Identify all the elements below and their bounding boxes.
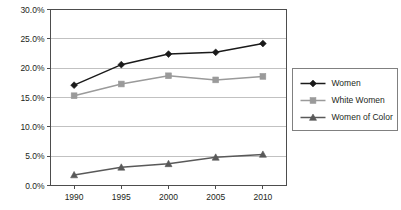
data-point-marker-diamond — [260, 40, 267, 47]
line-chart: 0.0%5.0%10.0%15.0%20.0%25.0%30.0% 199019… — [0, 0, 401, 210]
data-point-marker-diamond — [118, 61, 125, 68]
gridlines — [51, 10, 287, 157]
legend-item-label: Women — [332, 78, 361, 88]
legend-item-label: Women of Color — [332, 112, 393, 122]
y-axis-tick-label: 0.0% — [25, 181, 45, 191]
x-axis-tick-label: 2000 — [159, 192, 178, 202]
series-group — [71, 40, 267, 178]
legend-item-label: White Women — [332, 95, 385, 105]
series-women — [71, 40, 267, 88]
x-axis — [51, 186, 287, 190]
y-axis-tick-label: 30.0% — [20, 5, 45, 15]
series-white-women — [71, 73, 266, 99]
x-axis-tick-label: 2005 — [206, 192, 225, 202]
data-point-marker-square — [260, 73, 266, 79]
y-axis-tick-label: 10.0% — [20, 122, 45, 132]
y-axis — [47, 10, 51, 186]
data-point-marker-diamond — [212, 49, 219, 56]
y-axis-tick-labels: 0.0%5.0%10.0%15.0%20.0%25.0%30.0% — [20, 5, 45, 191]
y-axis-tick-label: 5.0% — [25, 151, 45, 161]
data-point-marker-square — [166, 73, 172, 79]
x-axis-tick-labels: 19901995200020052010 — [65, 192, 273, 202]
data-point-marker-square — [118, 81, 124, 87]
data-point-marker-square — [71, 93, 77, 99]
x-axis-tick-label: 2010 — [253, 192, 272, 202]
data-point-marker-diamond — [71, 82, 78, 89]
y-axis-tick-label: 20.0% — [20, 63, 45, 73]
y-axis-tick-label: 15.0% — [20, 93, 45, 103]
data-point-marker-square — [310, 98, 316, 104]
x-axis-tick-label: 1995 — [112, 192, 131, 202]
x-axis-tick-label: 1990 — [65, 192, 84, 202]
y-axis-tick-label: 25.0% — [20, 34, 45, 44]
series-women-of-color — [71, 151, 267, 178]
data-point-marker-diamond — [165, 51, 172, 58]
legend[interactable]: WomenWhite WomenWomen of Color — [293, 69, 398, 131]
chart-canvas: 0.0%5.0%10.0%15.0%20.0%25.0%30.0% 199019… — [0, 0, 401, 210]
data-point-marker-square — [213, 77, 219, 83]
